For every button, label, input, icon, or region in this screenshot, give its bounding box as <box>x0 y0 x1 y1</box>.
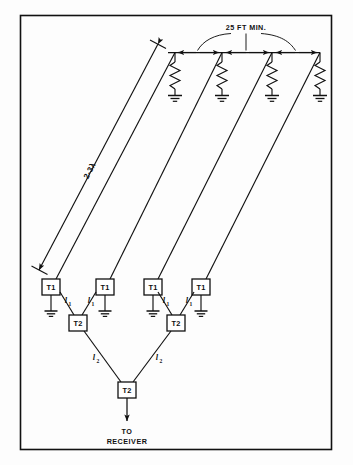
l1-feedlines <box>60 292 194 315</box>
t1-1: T1 <box>42 279 60 295</box>
label-l2-right: l 2 <box>156 353 163 364</box>
t2-left-label: T2 <box>73 319 82 328</box>
termination-4 <box>313 53 327 102</box>
termination-3 <box>265 53 279 102</box>
t1-1-ground <box>45 295 58 316</box>
label-l2-left: l 2 <box>93 353 100 364</box>
t2-left: T2 <box>69 315 87 331</box>
t1-2-ground <box>99 295 112 316</box>
spacing-label: 25 FT MIN. <box>226 23 266 32</box>
length-dimension-line <box>32 40 167 275</box>
t1-3: T1 <box>144 279 162 295</box>
t2-right-label: T2 <box>171 319 180 328</box>
t2-combiner: T2 <box>118 382 136 398</box>
output-label-line2: RECEIVER <box>107 437 148 446</box>
t1-3-ground <box>147 295 160 316</box>
svg-text:1: 1 <box>167 301 170 307</box>
t1-3-label: T1 <box>148 283 157 292</box>
t1-4-label: T1 <box>196 283 205 292</box>
output-label-line1: TO <box>122 427 133 436</box>
svg-text:1: 1 <box>69 301 72 307</box>
t1-4-ground <box>195 295 208 316</box>
t1-2-label: T1 <box>100 283 109 292</box>
figure-border <box>21 16 332 450</box>
svg-text:1: 1 <box>190 301 193 307</box>
label-l1-b: l 1 <box>88 296 95 307</box>
t2-right: T2 <box>167 315 185 331</box>
label-l1-c: l 1 <box>163 296 170 307</box>
t1-1-label: T1 <box>46 283 55 292</box>
t1-4: T1 <box>192 279 210 295</box>
antenna-array-diagram: 25 FT MIN. 2-3λ <box>0 0 353 465</box>
label-l1-d: l 1 <box>186 296 193 307</box>
svg-text:1: 1 <box>92 301 95 307</box>
termination-1 <box>168 53 182 102</box>
t1-2: T1 <box>96 279 114 295</box>
t2-combiner-label: T2 <box>122 386 131 395</box>
spacing-label-leaders <box>198 34 296 51</box>
label-l1-a: l 1 <box>65 296 72 307</box>
svg-text:2: 2 <box>160 358 163 364</box>
svg-text:l: l <box>156 353 159 362</box>
termination-2 <box>215 53 229 102</box>
svg-text:l: l <box>93 353 96 362</box>
schematic-canvas: 25 FT MIN. 2-3λ <box>0 0 353 465</box>
svg-text:2: 2 <box>97 358 100 364</box>
